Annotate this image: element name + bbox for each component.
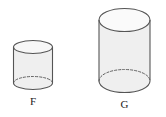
cylinder-g-label: G: [121, 98, 129, 110]
cylinder-g-group: G: [99, 9, 150, 111]
geometry-figure: F G: [0, 0, 166, 117]
cylinder-f-group: F: [14, 41, 53, 108]
cylinders-diagram: F G: [0, 0, 166, 117]
cylinder-f-label: F: [30, 95, 36, 107]
